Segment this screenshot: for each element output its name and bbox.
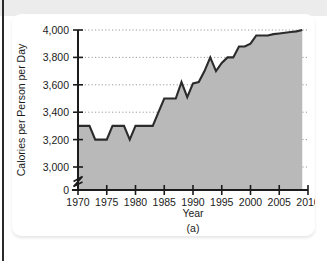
x-tick-label-1985: 1985 xyxy=(153,196,177,208)
x-tick-label-2000: 2000 xyxy=(239,196,263,208)
x-tick-label-2010: 2010 xyxy=(296,196,315,208)
page-root: 03,0003,2003,4003,6003,8004,000 19701975… xyxy=(0,0,327,261)
figure-card: 03,0003,2003,4003,6003,8004,000 19701975… xyxy=(12,14,315,236)
chart-area: 03,0003,2003,4003,6003,8004,000 19701975… xyxy=(12,14,315,236)
x-tick-label-1970: 1970 xyxy=(66,196,90,208)
y-tick-label-3,600: 3,600 xyxy=(43,79,69,91)
area-fill xyxy=(78,30,302,190)
panel-caption: (a) xyxy=(187,222,200,234)
x-tick-label-2005: 2005 xyxy=(268,196,292,208)
y-tick-label-3,800: 3,800 xyxy=(43,51,69,63)
x-tick-label-1980: 1980 xyxy=(124,196,148,208)
y-tick-label-3,000: 3,000 xyxy=(43,161,69,173)
y-axis-ticks: 03,0003,2003,4003,6003,8004,000 xyxy=(43,24,83,196)
y-axis-title: Calories per Person per Day xyxy=(15,43,27,176)
calories-per-person-area-chart: 03,0003,2003,4003,6003,8004,000 19701975… xyxy=(12,14,315,236)
x-axis-title: Year xyxy=(182,207,204,219)
y-tick-label-4,000: 4,000 xyxy=(43,24,69,36)
y-tick-label-0: 0 xyxy=(63,184,69,196)
x-tick-label-1975: 1975 xyxy=(95,196,119,208)
left-edge-rule xyxy=(2,0,4,261)
y-tick-label-3,400: 3,400 xyxy=(43,106,69,118)
x-tick-label-1995: 1995 xyxy=(210,196,234,208)
y-tick-label-3,200: 3,200 xyxy=(43,134,69,146)
